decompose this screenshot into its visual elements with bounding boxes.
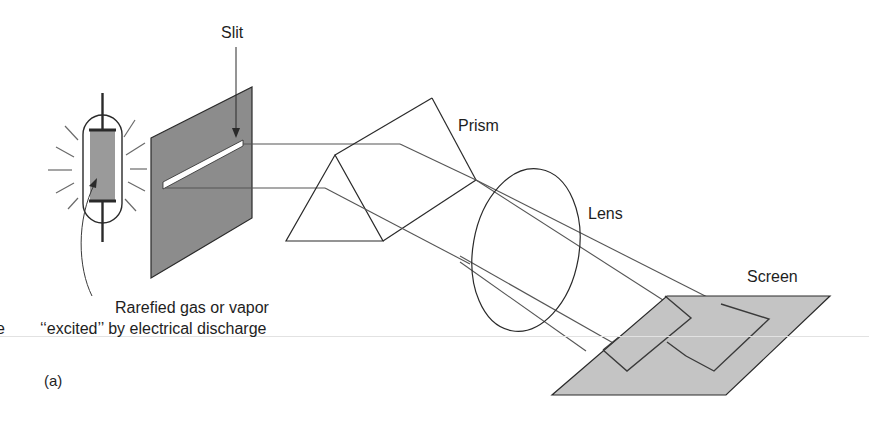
discharge-tube xyxy=(48,93,147,242)
lens xyxy=(460,160,593,340)
source-label-line1: Rarefied gas or vapor xyxy=(92,299,292,317)
prism xyxy=(286,98,476,241)
edge-text-fragment: e xyxy=(0,320,5,338)
screen-label: Screen xyxy=(747,268,798,286)
spectroscope-diagram xyxy=(0,0,869,422)
lens-label: Lens xyxy=(588,205,623,223)
viewing-screen xyxy=(552,296,830,395)
slit-label: Slit xyxy=(221,24,243,42)
source-label-line2: ‘‘excited’’ by electrical discharge xyxy=(40,320,266,338)
panel-label: (a) xyxy=(44,372,62,390)
prism-label: Prism xyxy=(458,117,499,135)
